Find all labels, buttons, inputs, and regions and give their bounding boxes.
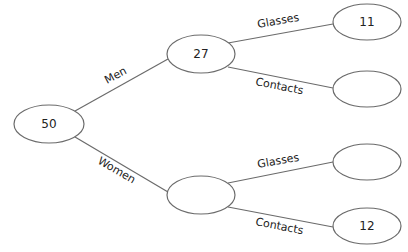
node-men-value: 27: [193, 47, 208, 61]
node-root: 50: [14, 105, 84, 143]
edge-label-women-contacts: Contacts: [254, 215, 304, 237]
node-women-glasses: [333, 144, 401, 180]
tree-diagram: Men Women Glasses Contacts Glasses Conta…: [0, 0, 408, 252]
node-men-glasses: 11: [333, 4, 401, 40]
node-men-contacts: [333, 71, 401, 107]
edge-label-men-glasses: Glasses: [256, 11, 300, 31]
node-women-contacts: 12: [333, 208, 401, 244]
node-women: [167, 176, 235, 214]
edge-label-women: Women: [96, 154, 138, 186]
node-women-contacts-value: 12: [359, 219, 374, 233]
node-men-glasses-value: 11: [359, 15, 374, 29]
node-root-value: 50: [41, 117, 56, 131]
node-men: 27: [167, 35, 235, 73]
edge-label-women-glasses: Glasses: [256, 151, 300, 171]
edge-label-men-contacts: Contacts: [254, 75, 304, 97]
